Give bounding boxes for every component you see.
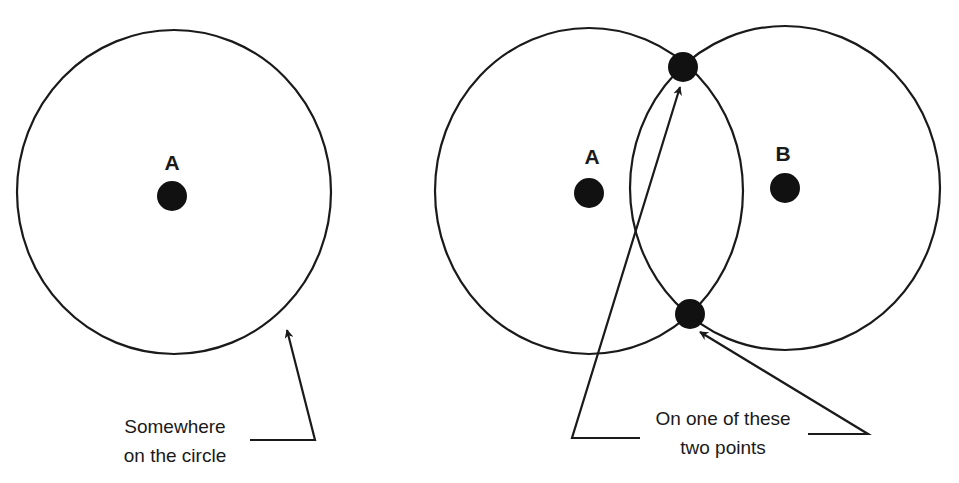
- right-figure: A B On one of these two points: [435, 26, 940, 458]
- left-figure: A Somewhere on the circle: [17, 30, 331, 466]
- point-a-left: [157, 181, 187, 211]
- caption-left-line2: on the circle: [124, 445, 226, 466]
- diagram-canvas: A Somewhere on the circle A B On one of …: [0, 0, 959, 483]
- arrow-to-top-intersection: [572, 87, 680, 438]
- label-a-right: A: [584, 145, 599, 168]
- point-b-right: [770, 173, 800, 203]
- intersection-point-top: [668, 52, 698, 82]
- diagram-svg: A Somewhere on the circle A B On one of …: [0, 0, 959, 483]
- caption-left-line1: Somewhere: [124, 416, 225, 437]
- label-a-left: A: [164, 151, 179, 174]
- caption-right-line2: two points: [680, 437, 766, 458]
- intersection-point-bottom: [675, 299, 705, 329]
- caption-right-line1: On one of these: [655, 408, 790, 429]
- arrow-to-circle: [250, 330, 315, 440]
- label-b-right: B: [775, 142, 790, 165]
- point-a-right: [574, 178, 604, 208]
